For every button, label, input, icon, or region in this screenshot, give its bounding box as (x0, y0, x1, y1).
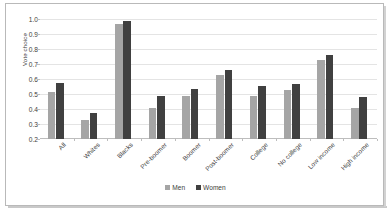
y-axis-tick-label: 0.3 (12, 121, 38, 128)
bar-group (141, 19, 175, 139)
bar-women-post-boomer (225, 70, 233, 139)
x-axis-tick-mark (209, 139, 210, 141)
y-axis-tick-label: 0.6 (12, 76, 38, 83)
bar-women-all (56, 83, 64, 139)
legend-item-women[interactable]: Women (196, 184, 226, 191)
bar-series-container (40, 19, 377, 139)
bar-men-high-income (351, 108, 359, 140)
bar-group (276, 19, 310, 139)
x-axis-tick-mark (343, 139, 344, 141)
bar-women-blacks (123, 21, 131, 139)
legend-label: Women (203, 184, 226, 191)
legend-swatch-men (165, 185, 170, 190)
bar-group (242, 19, 276, 139)
x-axis-label-blacks: Blacks (116, 141, 134, 159)
bar-men-all (48, 92, 56, 139)
y-axis-tick-label: 0.8 (12, 46, 38, 53)
x-axis-tick-mark (141, 139, 142, 141)
bar-group (107, 19, 141, 139)
x-axis-tick-mark (175, 139, 176, 141)
bar-men-low-income (317, 60, 325, 140)
chart-legend: MenWomen (6, 184, 385, 191)
chart-figure: Vote choice 0.20.30.40.50.60.70.80.91.0 … (5, 3, 384, 206)
bar-women-whites (90, 113, 98, 139)
bar-men-whites (81, 120, 89, 139)
x-axis-label-low-income: Low income (307, 141, 336, 170)
bar-women-low-income (326, 55, 334, 139)
y-axis-tick-label: 0.9 (12, 31, 38, 38)
bar-men-post-boomer (216, 75, 224, 139)
x-axis-tick-mark (310, 139, 311, 141)
x-axis-label-college: College (248, 141, 269, 162)
bar-group (343, 19, 377, 139)
y-axis-tick-label: 0.2 (12, 136, 38, 143)
frame-shadow-right (384, 6, 386, 207)
bar-women-high-income (359, 97, 367, 139)
x-axis-tick-mark (107, 139, 108, 141)
x-axis-label-boomer: Boomer (181, 141, 202, 162)
x-axis-label-all: All (57, 141, 67, 151)
y-axis-tick-label: 0.7 (12, 61, 38, 68)
x-axis-label-post-boomer: Post-boomer (204, 141, 235, 172)
bar-men-boomer (182, 96, 190, 140)
y-axis-tick-mark (37, 139, 40, 140)
frame-shadow-bottom (8, 206, 387, 208)
legend-swatch-women (196, 185, 201, 190)
plot-area: 0.20.30.40.50.60.70.80.91.0 (40, 19, 377, 139)
x-axis-label-no-college: No college (276, 141, 303, 168)
bar-group (310, 19, 344, 139)
legend-item-men[interactable]: Men (165, 184, 185, 191)
y-axis-tick-label: 0.5 (12, 91, 38, 98)
bar-women-no-college (292, 84, 300, 140)
bar-women-boomer (191, 89, 199, 139)
bar-group (209, 19, 243, 139)
x-axis-label-pre-boomer: Pre-boomer (139, 141, 168, 170)
bar-men-pre-boomer (149, 108, 157, 140)
bar-men-college (250, 96, 258, 139)
y-axis-tick-label: 0.4 (12, 106, 38, 113)
x-axis-tick-mark (276, 139, 277, 141)
bar-men-no-college (284, 90, 292, 140)
bar-group (175, 19, 209, 139)
bar-men-blacks (115, 24, 123, 139)
bar-women-college (258, 86, 266, 139)
x-axis-label-high-income: High income (340, 141, 370, 171)
y-axis-tick-label: 1.0 (12, 16, 38, 23)
x-axis-tick-mark (242, 139, 243, 141)
x-axis-tick-mark (377, 139, 378, 141)
x-axis-tick-mark (74, 139, 75, 141)
legend-label: Men (172, 184, 185, 191)
bar-group (40, 19, 74, 139)
bar-women-pre-boomer (157, 96, 165, 140)
bar-group (74, 19, 108, 139)
x-axis-label-whites: Whites (82, 141, 101, 160)
